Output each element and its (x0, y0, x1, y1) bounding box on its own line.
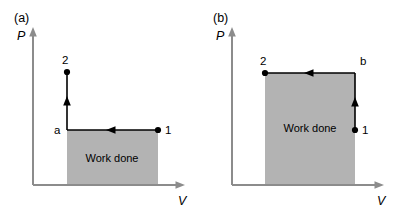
state-point-2-label-a: 2 (62, 54, 68, 66)
panel-a-plot: (a) P V 2 a 1 Work done (0, 0, 200, 212)
v-axis-label-b: V (377, 194, 387, 208)
panel-label-b: (b) (213, 11, 228, 25)
p-axis-label-b: P (216, 29, 225, 43)
v-axis-arrowhead-a (176, 181, 186, 189)
p-axis-arrowhead-a (29, 27, 37, 37)
p-axis-label-a: P (17, 29, 26, 43)
panel-b: (b) P V 2 b 1 Work done (200, 0, 401, 212)
state-point-2-label-b: 2 (260, 55, 266, 67)
state-point-2-marker-b (262, 70, 268, 76)
work-done-label-b: Work done (284, 122, 337, 134)
state-point-b-label-b: b (360, 55, 366, 67)
state-point-2-marker-a (64, 69, 70, 75)
v-axis-label-a: V (178, 194, 188, 208)
state-point-1-marker-b (352, 127, 358, 133)
state-point-1-marker-a (155, 127, 161, 133)
state-point-a-label-a: a (54, 124, 61, 136)
panel-label-a: (a) (14, 11, 29, 25)
work-done-label-a: Work done (86, 152, 139, 164)
arrow-up-a-to-2 (63, 96, 71, 106)
panel-b-plot: (b) P V 2 b 1 Work done (200, 0, 401, 212)
state-point-1-label-a: 1 (165, 124, 171, 136)
state-point-1-label-b: 1 (362, 124, 368, 136)
v-axis-arrowhead-b (375, 181, 385, 189)
panel-a: (a) P V 2 a 1 Work done (0, 0, 200, 212)
p-axis-arrowhead-b (228, 27, 236, 37)
pv-diagram-figure: (a) P V 2 a 1 Work done (0, 0, 401, 212)
